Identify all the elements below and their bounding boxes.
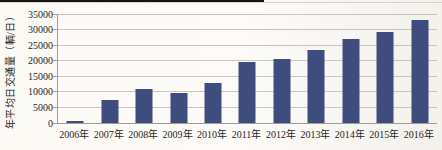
bar-slot [196,14,230,123]
y-tick-label: 15000 [0,71,53,82]
scan-top-edge-line [0,2,442,3]
bar-slot [368,14,402,123]
bar-2011 [239,62,256,123]
x-tick-label: 2011年 [229,126,263,141]
y-tick-mark [53,60,57,61]
bar-2015 [377,32,394,123]
bar-slot [92,14,126,123]
x-axis-labels: 2006年2007年2008年2009年2010年2011年2012年2013年… [57,126,436,141]
bar-2012 [273,59,290,123]
bar-2013 [308,50,325,123]
bar-slot [58,14,92,123]
x-tick-label: 2016年 [402,126,436,141]
bar-slot [334,14,368,123]
x-tick-label: 2014年 [333,126,367,141]
y-tick-mark [53,29,57,30]
y-tick-mark [53,76,57,77]
x-tick-label: 2012年 [264,126,298,141]
y-tick-label: 10000 [0,86,53,97]
y-axis-tick-labels: 05000100001500020000250003000035000 [0,14,53,123]
bar-slot [403,14,437,123]
y-tick-mark [53,123,57,124]
bar-slot [230,14,264,123]
y-tick-mark [53,14,57,15]
bar-slot [299,14,333,123]
bar-2007 [101,100,118,123]
bar-2014 [342,39,359,123]
bar-slot [265,14,299,123]
bar-2008 [136,89,153,123]
x-tick-label: 2009年 [160,126,194,141]
bar-2006 [67,121,84,123]
y-tick-label: 0 [0,118,53,129]
y-tick-label: 20000 [0,55,53,66]
bar-2009 [170,93,187,123]
y-tick-label: 5000 [0,102,53,113]
y-tick-label: 35000 [0,9,53,20]
bar-slot [161,14,195,123]
x-tick-label: 2013年 [298,126,332,141]
y-tick-label: 30000 [0,24,53,35]
bar-slot [127,14,161,123]
bar-2016 [411,20,428,123]
scanned-chart-page: 年平均日交通量（輌/日） 050001000015000200002500030… [0,0,442,150]
x-tick-label: 2008年 [126,126,160,141]
bar-2010 [205,83,222,123]
x-tick-label: 2015年 [367,126,401,141]
x-tick-label: 2010年 [195,126,229,141]
plot-area [57,14,437,124]
y-tick-mark [53,107,57,108]
x-tick-label: 2007年 [91,126,125,141]
y-tick-mark [53,45,57,46]
y-tick-label: 25000 [0,40,53,51]
y-tick-mark [53,91,57,92]
x-tick-label: 2006年 [57,126,91,141]
